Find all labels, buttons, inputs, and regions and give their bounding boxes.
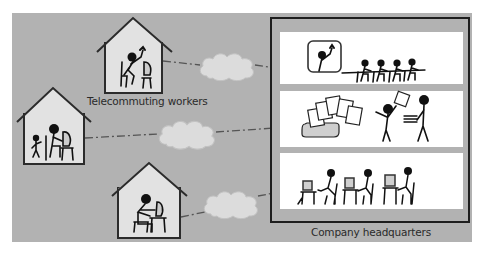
telecommuting-workers-label: Telecommuting workers xyxy=(87,95,208,107)
company-headquarters-label: Company headquarters xyxy=(311,226,431,238)
house-1-walls xyxy=(105,43,162,93)
telecommuting-diagram xyxy=(0,0,484,256)
hq-room-documents xyxy=(280,91,463,147)
headquarters xyxy=(271,18,469,222)
